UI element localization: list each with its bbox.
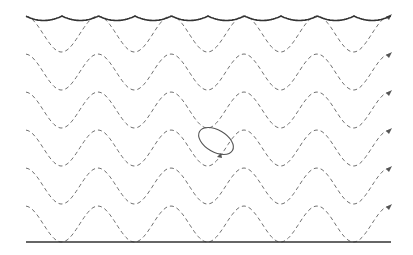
orbit-ellipse <box>194 122 238 160</box>
wave-path-3 <box>26 92 390 128</box>
arrowhead-icon <box>386 128 392 134</box>
arrowhead-icon <box>386 204 392 210</box>
wave-path-5 <box>26 168 390 204</box>
wave-path-1 <box>26 16 390 52</box>
arrowhead-icon <box>386 52 392 58</box>
arrowhead-icon <box>386 166 392 172</box>
wave-path-2 <box>26 54 390 90</box>
diagram-canvas <box>0 0 413 255</box>
particle-orbit <box>194 122 238 160</box>
wave-path-4 <box>26 130 390 166</box>
wave-diagram <box>0 0 413 255</box>
arrowhead-icon <box>386 90 392 96</box>
wave-path-6 <box>26 206 390 242</box>
water-surface <box>26 16 391 21</box>
